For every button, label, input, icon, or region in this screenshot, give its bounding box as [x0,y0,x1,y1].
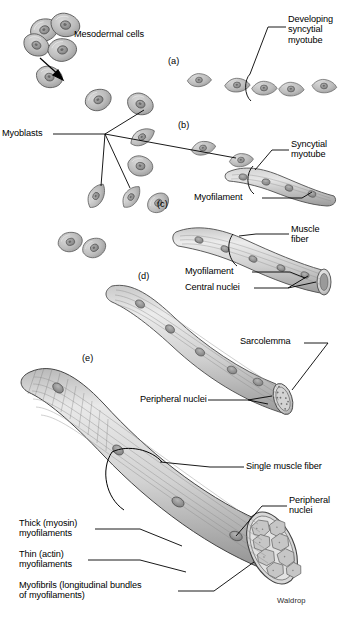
figure-canvas: Mesodermal cells Developing syncytial my… [0,0,354,619]
label-myofilament-lower: Myofilament [185,266,233,276]
label-peripheral-nuclei-d: Peripheral nuclei [140,394,207,404]
label-myoblasts: Myoblasts [2,128,42,138]
label-myofilament-upper: Myofilament [194,192,242,202]
label-muscle-fiber: Muscle fiber [291,224,320,245]
label-sarcolemma: Sarcolemma [240,336,291,346]
panel-letter-c: (c) [157,199,168,209]
label-mesodermal-cells: Mesodermal cells [74,29,144,39]
artist-credit: Waldrop [277,596,306,605]
label-myofibrils: Myofibrils (longitudinal bundles of myof… [19,580,141,601]
label-central-nuclei: Central nuclei [185,282,240,292]
label-single-muscle-fiber: Single muscle fiber [246,461,322,471]
label-thin-actin-myofilaments: Thin (actin) myofilaments [19,549,72,570]
label-peripheral-nuclei-e: Peripheral nuclei [289,495,330,516]
label-thick-myosin-myofilaments: Thick (myosin) myofilaments [19,518,77,539]
panel-letter-a: (a) [168,56,179,66]
panel-letter-b: (b) [178,120,189,130]
label-syncytial-myotube: Syncytial myotube [291,139,327,160]
label-developing-syncytial-myotube: Developing syncytial myotube [288,14,333,45]
panel-letter-e: (e) [82,353,93,363]
panel-letter-d: (d) [138,271,149,281]
